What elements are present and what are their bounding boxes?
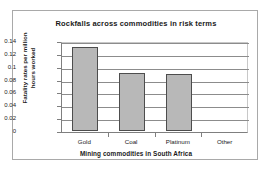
bar-slot	[62, 41, 109, 131]
bar-slot	[202, 41, 249, 131]
bar-slot	[109, 41, 156, 131]
bar-gold	[72, 47, 98, 131]
x-axis-tick-mark	[108, 133, 109, 137]
x-axis-tick-mark	[201, 133, 202, 137]
y-axis-tick-label: 0.06	[0, 89, 16, 95]
y-axis-tick-label: 0.12	[0, 51, 16, 57]
plot-area	[61, 42, 248, 133]
x-axis-label-other: Other	[197, 138, 253, 145]
y-axis-title-line-2: hours worked	[29, 25, 37, 111]
bar-coal	[119, 73, 145, 131]
x-axis-tick-mark	[155, 133, 156, 137]
chart-frame: Rockfalls across commodities in risk ter…	[12, 10, 258, 160]
y-axis-title: Fatality rates per million hours worked	[21, 25, 43, 111]
y-axis-tick-label: 0.08	[0, 77, 16, 83]
y-axis-title-line-1: Fatality rates per million	[21, 25, 29, 111]
plot-box	[61, 42, 248, 133]
x-axis-title: Mining commodities in South Africa	[13, 150, 259, 157]
bar-platinum	[166, 74, 192, 131]
y-axis-tick-label: 0.04	[0, 102, 16, 108]
y-axis-tick-label: 0.02	[0, 115, 16, 121]
y-axis-tick-label: 0.1	[0, 64, 16, 70]
y-axis-tick-label: 0	[0, 128, 16, 134]
bar-slot	[156, 41, 203, 131]
y-axis-tick-label: 0.14	[0, 38, 16, 44]
chart-title: Rockfalls across commodities in risk ter…	[13, 19, 259, 28]
